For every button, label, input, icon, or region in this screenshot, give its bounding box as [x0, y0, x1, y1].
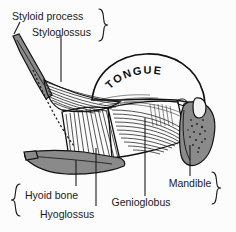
label-hyoid-bone: Hyoid bone	[25, 189, 78, 201]
label-mandible: Mandible	[169, 177, 212, 189]
label-hyoglossus: Hyoglossus	[40, 208, 94, 220]
label-styloglossus: Styloglossus	[32, 26, 91, 38]
label-styloid-process: Styloid process	[12, 10, 83, 22]
tongue-anatomy-figure: TONGUE	[0, 0, 236, 232]
mandible-alveolus	[193, 98, 206, 118]
label-genioglobus: Genioglobus	[112, 196, 171, 208]
